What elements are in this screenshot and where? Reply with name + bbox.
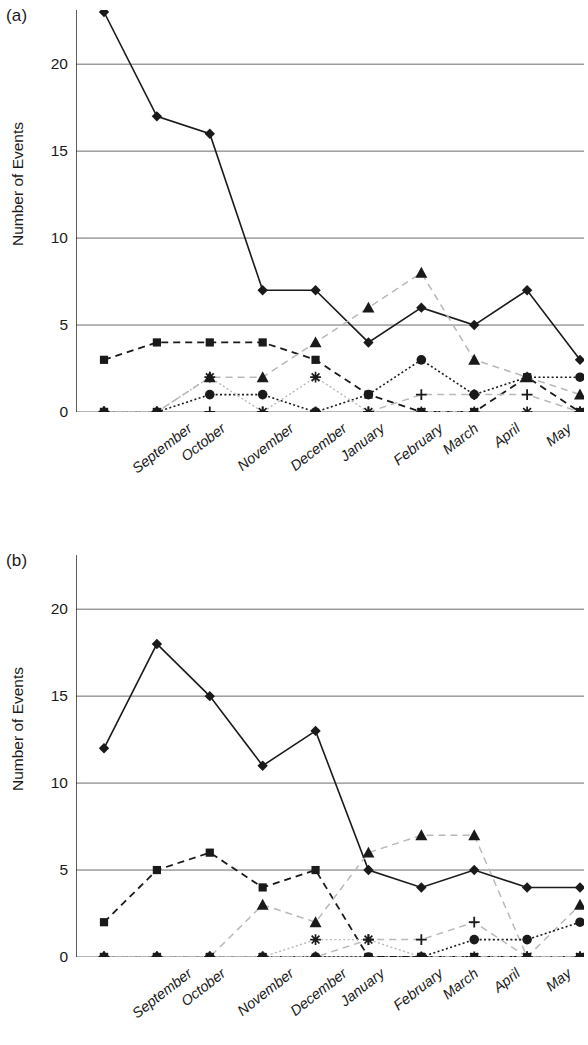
chart-svg [76,555,584,957]
data-point-square [259,883,267,891]
chart-panel-a: (a) Number of Events 05101520 SeptemberO… [0,0,588,500]
x-tick-label: March [440,965,482,1002]
data-point-circle [575,917,584,927]
data-point-triangle [310,336,322,347]
series-line-square-dashed [104,342,580,412]
x-tick-label: March [440,420,482,457]
data-point-diamond [469,320,479,330]
data-point-star [310,372,321,383]
series-line-square-dashed [104,853,580,957]
data-point-diamond [522,882,532,892]
data-point-square [100,918,108,926]
data-point-star [363,934,374,945]
data-point-star [257,407,268,412]
data-point-circle [575,372,584,382]
data-point-triangle [468,829,480,840]
data-point-star [522,407,533,412]
data-point-diamond [99,743,109,753]
data-point-diamond [99,10,109,17]
data-point-circle [205,390,215,400]
plot-area-b [76,555,584,957]
series-line-circle-dotted [104,922,580,957]
y-tick-label: 5 [28,862,68,878]
y-tick-label: 15 [28,143,68,159]
x-tick-label: December [287,420,350,474]
data-point-star [363,407,374,412]
data-point-triangle [257,899,269,910]
data-point-star [99,407,110,412]
series-line-star-dotted [104,377,580,412]
series-line-diamond-solid [104,644,580,887]
x-tick-label: February [391,420,447,468]
data-point-star [416,407,427,412]
y-tick-label: 20 [28,601,68,617]
x-tick-label: April [490,420,523,450]
data-point-circle [258,390,268,400]
data-point-star [416,952,427,957]
data-point-triangle [574,389,584,400]
data-point-square [259,338,267,346]
data-point-diamond [575,355,584,365]
data-point-circle [522,372,532,382]
data-point-diamond [257,285,267,295]
x-tick-label: May [543,965,574,994]
data-point-star [257,952,268,957]
data-point-triangle [362,847,374,858]
series-line-triangle-dashed [104,835,580,957]
data-point-square [206,338,214,346]
data-point-star [469,407,480,412]
data-point-diamond [469,865,479,875]
y-tick-label: 15 [28,688,68,704]
data-point-square [153,866,161,874]
data-point-triangle [362,302,374,313]
x-tick-label: February [391,965,447,1013]
data-point-star [469,952,480,957]
series-line-plus-dashed [104,395,580,412]
data-point-square [206,849,214,857]
data-point-square [311,866,319,874]
data-point-diamond [205,129,215,139]
series-line-circle-dotted [104,360,580,412]
x-tick-label: April [490,965,523,995]
x-tick-label: May [543,420,574,449]
data-point-star [204,372,215,383]
y-tick-label: 0 [28,949,68,965]
data-point-plus [469,389,480,400]
chart-panel-b: (b) Number of Events 05101520 SeptemberO… [0,545,588,1045]
data-point-triangle [257,371,269,382]
x-axis-labels-a: SeptemberOctoberNovemberDecemberJanuaryF… [76,414,588,500]
data-point-diamond [310,726,320,736]
data-point-diamond [152,111,162,121]
data-point-star [99,952,110,957]
data-point-triangle [415,829,427,840]
series-line-star-dotted [104,940,580,957]
data-point-triangle [468,354,480,365]
data-point-plus [522,389,533,400]
series-line-plus-dashed [104,922,580,957]
data-point-triangle [574,899,584,910]
data-point-plus [204,407,215,412]
data-point-triangle [415,267,427,278]
data-point-plus [416,934,427,945]
data-point-star [151,407,162,412]
data-point-circle [522,935,532,945]
chart-svg [76,10,584,412]
data-point-diamond [363,865,373,875]
x-tick-label: November [234,965,297,1019]
y-axis-ticks-a: 05101520 [0,10,68,412]
x-tick-label: November [234,420,297,474]
data-point-star [151,952,162,957]
x-tick-label: December [287,965,350,1019]
data-point-diamond [416,882,426,892]
data-point-plus [416,389,427,400]
plot-area-a [76,10,584,412]
y-tick-label: 10 [28,775,68,791]
x-axis-labels-b: SeptemberOctoberNovemberDecemberJanuaryF… [76,959,588,1045]
data-point-star [310,934,321,945]
data-point-square [311,356,319,364]
data-point-square [153,338,161,346]
data-point-circle [469,935,479,945]
y-tick-label: 20 [28,56,68,72]
y-tick-label: 10 [28,230,68,246]
data-point-diamond [416,302,426,312]
